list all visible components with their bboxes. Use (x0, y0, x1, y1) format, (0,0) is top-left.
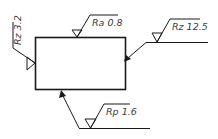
top-roughness-label: Ra 0.8 (92, 17, 123, 28)
right-leader-diagonal (128, 43, 146, 59)
bottom-arrow-icon (59, 90, 66, 98)
roughness-symbol-bottom: Rp 1.6 (59, 90, 150, 129)
roughness-symbol-top: Ra 0.8 (72, 15, 123, 37)
right-triangle-icon (152, 33, 162, 42)
roughness-symbol-left: Rz 3.2 (12, 15, 35, 70)
right-roughness-label: Rz 12.5 (172, 21, 208, 32)
bottom-leader-diagonal (63, 96, 79, 128)
part-rectangle (36, 38, 126, 90)
left-roughness-label: Rz 3.2 (12, 15, 23, 45)
roughness-symbol-right: Rz 12.5 (124, 19, 208, 62)
roughness-diagram: Rz 3.2 Ra 0.8 Rz 12.5 Rp 1.6 (0, 0, 218, 139)
bottom-roughness-label: Rp 1.6 (106, 106, 137, 117)
